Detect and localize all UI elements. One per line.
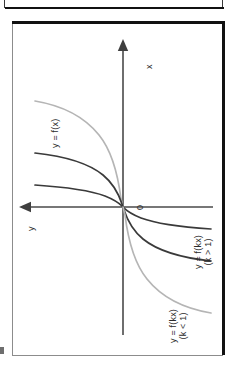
curve-label-k-less-line1: y = f(kx) [168,309,178,343]
plot-canvas [13,23,222,355]
curve-label-k-greater-line1: y = f(kx) [193,235,203,269]
axis-y-label: y [26,226,36,231]
curve-label-k-greater-line2: (k > 1) [203,235,213,269]
figure-frame: x y 0 y = f(x) y = f(kx) (k > 1) y = f(k… [12,22,223,356]
curve-label-base: y = f(x) [50,119,60,148]
curve-label-k-less-line2: (k < 1) [178,309,188,343]
curve-k-greater-lower [123,207,211,229]
page-edge-mark [0,347,4,354]
curve-k-greater-upper [35,185,123,207]
axis-x-label: x [144,64,154,69]
curve-label-k-greater: y = f(kx) (k > 1) [193,235,213,269]
origin-label: 0 [135,205,145,210]
top-clipped-panel [4,0,223,8]
curve-label-k-less: y = f(kx) (k < 1) [168,309,188,343]
axis-y-line [19,202,213,212]
